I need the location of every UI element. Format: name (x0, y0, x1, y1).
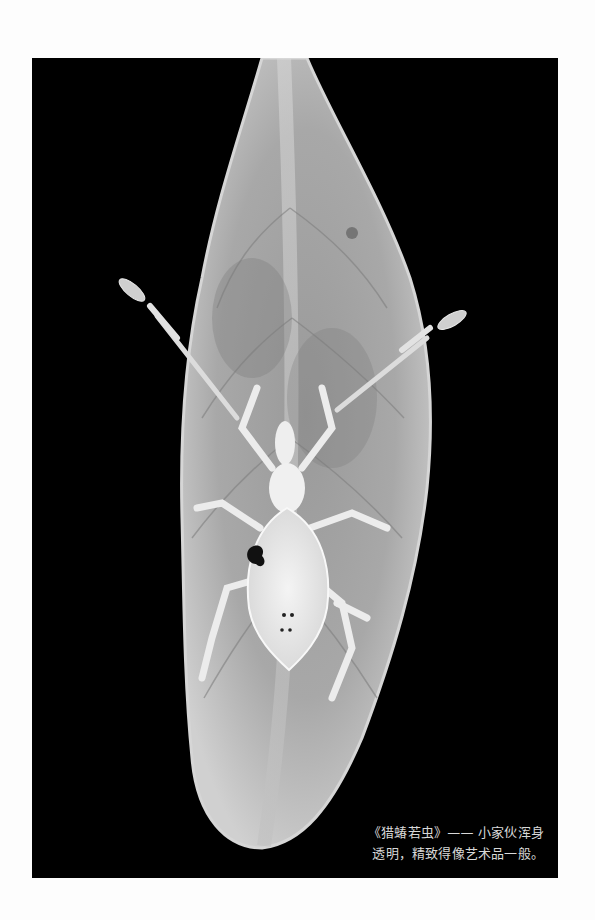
leaf-insect-illustration (32, 58, 558, 878)
insect-photo: 《猎蝽若虫》—— 小家伙浑身 透明，精致得像艺术品一般。 (32, 58, 558, 878)
caption-line-2: 透明，精致得像艺术品一般。 (368, 843, 544, 864)
caption-line-1: 《猎蝽若虫》—— 小家伙浑身 (368, 822, 544, 843)
page: 《猎蝽若虫》—— 小家伙浑身 透明，精致得像艺术品一般。 (0, 0, 595, 920)
photo-caption: 《猎蝽若虫》—— 小家伙浑身 透明，精致得像艺术品一般。 (368, 822, 544, 864)
